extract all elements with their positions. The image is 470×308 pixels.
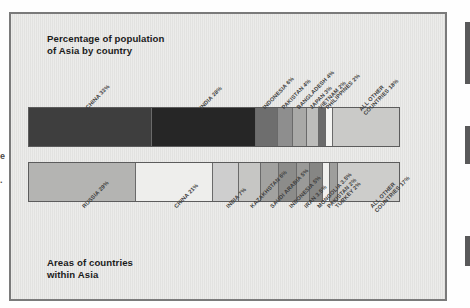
left-clipped-glyph-2: . [0,176,3,185]
population-chart-title: Percentage of population of Asia by coun… [47,33,165,56]
page-edge-mark-3 [465,236,470,266]
area-segment-russia [29,163,135,201]
population-segment-china [29,108,151,146]
population-segment-bangladesh [292,108,307,146]
page-edge-mark-2 [465,126,470,164]
population-segment-vietnam [318,108,325,146]
left-clipped-glyph-1: e [0,152,5,161]
population-segment-pakistan [277,108,292,146]
population-segment-india [151,108,255,146]
area-chart-title: Areas of countries within Asia [47,257,133,280]
figure-canvas: e . Percentage of population of Asia by … [0,0,470,308]
population-segment-indonesia [255,108,277,146]
population-segment-japan [306,108,317,146]
page-edge-mark-1 [465,22,470,84]
population-segment-philippines [325,108,332,146]
population-stacked-bar [28,107,400,147]
area-segment-china [135,163,212,201]
